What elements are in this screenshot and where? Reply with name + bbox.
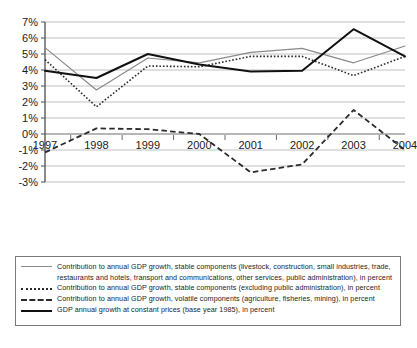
- legend-item-gdp-annual-growth: GDP annual growth at constant prices (ba…: [19, 305, 397, 316]
- legend-label-line2: restaurants and hotels, transport and co…: [57, 272, 392, 283]
- legend-swatch-dashed-icon: [19, 295, 53, 305]
- y-axis-tick-label: 3%: [22, 80, 38, 92]
- plot-area: -3%-2%-1%0%1%2%3%4%5%6%7%199719981999200…: [0, 0, 417, 250]
- legend-label-line1: Contribution to annual GDP growth, stabl…: [57, 283, 380, 294]
- legend-swatch-solid-black-icon: [19, 306, 53, 316]
- x-axis-tick-label: 2003: [341, 139, 365, 151]
- legend-label-line1: Contribution to annual GDP growth, volat…: [57, 294, 375, 305]
- legend-label-line1: GDP annual growth at constant prices (ba…: [57, 305, 275, 316]
- legend-swatch-dotted-icon: [19, 284, 53, 294]
- line-chart-svg: -3%-2%-1%0%1%2%3%4%5%6%7%199719981999200…: [0, 0, 417, 250]
- y-axis-tick-label: 7%: [22, 16, 38, 28]
- x-axis-tick-label: 1998: [84, 139, 108, 151]
- chart-figure: -3%-2%-1%0%1%2%3%4%5%6%7%199719981999200…: [0, 0, 417, 348]
- x-axis-tick-label: 2004: [393, 139, 417, 151]
- legend-label-line1: Contribution to annual GDP growth, stabl…: [57, 261, 392, 272]
- y-axis-tick-label: 4%: [22, 64, 38, 76]
- legend-item-stable-components-excluding-public-administration: Contribution to annual GDP growth, stabl…: [19, 283, 397, 294]
- chart-legend: Contribution to annual GDP growth, stabl…: [15, 256, 401, 326]
- y-axis-tick-label: 2%: [22, 96, 38, 108]
- x-axis-tick-label: 2001: [238, 139, 262, 151]
- legend-item-volatile-components: Contribution to annual GDP growth, volat…: [19, 294, 397, 305]
- y-axis-tick-label: 6%: [22, 32, 38, 44]
- y-axis-tick-label: -2%: [18, 160, 38, 172]
- series-line-stable-components-excluding-public-administration: [45, 56, 405, 106]
- legend-swatch-solid-gray-icon: [19, 262, 53, 272]
- x-axis-tick-label: 2002: [290, 139, 314, 151]
- y-axis-tick-label: -3%: [18, 176, 38, 188]
- legend-item-stable-components-including-public-administration: Contribution to annual GDP growth, stabl…: [19, 261, 397, 283]
- x-axis-tick-label: 1999: [136, 139, 160, 151]
- y-axis-tick-label: 5%: [22, 48, 38, 60]
- y-axis-tick-label: 1%: [22, 112, 38, 124]
- legend-label-group: Contribution to annual GDP growth, stabl…: [57, 261, 392, 283]
